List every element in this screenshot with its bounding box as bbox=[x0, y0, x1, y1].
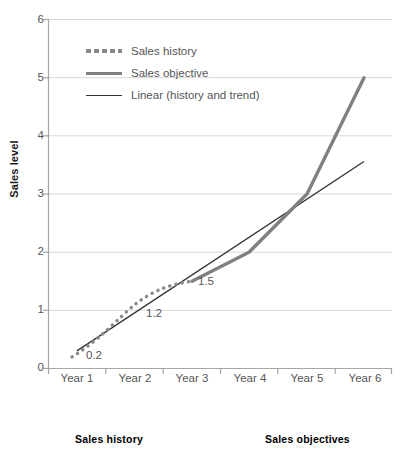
banner-label-sales-history: Sales history bbox=[75, 433, 143, 445]
y-axis bbox=[43, 19, 49, 369]
data-label-1-5: 1.5 bbox=[198, 276, 214, 288]
legend-item-linear-trend: Linear (history and trend) bbox=[86, 84, 316, 106]
thin-line-swatch-icon bbox=[86, 89, 122, 101]
sales-chart: Sales level 6 5 4 3 2 1 0 Year 1 Year 2 … bbox=[0, 0, 410, 475]
legend-label-sales-objective: Sales objective bbox=[131, 67, 208, 79]
dotted-line-swatch-icon bbox=[86, 45, 122, 57]
series-sales-objective bbox=[192, 78, 364, 282]
data-label-1-2: 1.2 bbox=[146, 308, 162, 320]
legend-label-linear-trend: Linear (history and trend) bbox=[131, 89, 259, 101]
legend-item-sales-history: Sales history bbox=[86, 40, 316, 62]
series-linear-trend bbox=[77, 162, 364, 351]
chart-legend: Sales history Sales objective Linear (hi… bbox=[86, 40, 316, 106]
x-axis bbox=[48, 369, 392, 375]
legend-label-sales-history: Sales history bbox=[131, 45, 197, 57]
legend-item-sales-objective: Sales objective bbox=[86, 62, 316, 84]
thick-line-swatch-icon bbox=[86, 67, 122, 79]
data-label-0-2: 0.2 bbox=[86, 350, 102, 362]
series-sales-history bbox=[72, 281, 192, 357]
banner-label-sales-objectives: Sales objectives bbox=[265, 433, 350, 445]
